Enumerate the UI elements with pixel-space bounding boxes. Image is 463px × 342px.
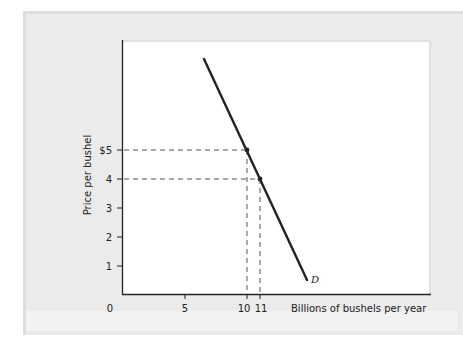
y-axis-title: Price per bushel	[82, 135, 93, 216]
y-tick-label-5: $5	[99, 145, 112, 156]
origin-label: 0	[107, 303, 113, 314]
y-tick-label-3: 3	[106, 203, 112, 214]
point-q10-p5	[245, 148, 250, 153]
x-tick-label-10: 10	[238, 303, 251, 314]
y-tick-label-2: 2	[106, 232, 112, 243]
reference-lines	[124, 150, 260, 293]
x-axis-title: Billions of bushels per year	[291, 303, 427, 314]
x-tick-label-11: 11	[255, 303, 268, 314]
y-tick-label-1: 1	[106, 261, 112, 272]
demand-curve-label: D	[310, 274, 319, 285]
y-tick-label-4: 4	[106, 174, 112, 185]
x-tick-label-5: 5	[182, 303, 188, 314]
point-q11-p4	[258, 177, 263, 182]
demand-curve	[204, 59, 307, 280]
